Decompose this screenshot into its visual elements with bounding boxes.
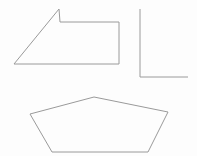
shapes-diagram [0, 0, 197, 156]
shapes-canvas [0, 0, 197, 156]
canvas-background [0, 0, 197, 156]
